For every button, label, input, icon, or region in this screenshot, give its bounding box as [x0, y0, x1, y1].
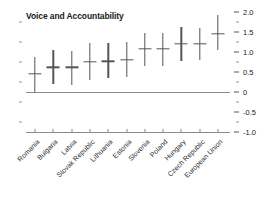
- y-minor-tick: [19, 22, 22, 23]
- y-minor-tick: [19, 122, 22, 123]
- x-tick-mark: [126, 129, 127, 133]
- y-tick-mark: [234, 112, 239, 113]
- chart-title: Voice and Accountability: [26, 11, 124, 21]
- y-minor-tick: [236, 42, 239, 43]
- y-tick-mark: [234, 92, 239, 93]
- x-tick-mark: [218, 129, 219, 133]
- x-tick-mark: [163, 129, 164, 133]
- y-minor-tick: [19, 82, 22, 83]
- estimate-marker: [193, 43, 206, 44]
- y-minor-tick: [236, 62, 239, 63]
- y-tick-mark: [234, 32, 239, 33]
- estimate-marker: [138, 48, 151, 49]
- estimate-marker: [157, 48, 170, 49]
- y-minor-tick: [236, 82, 239, 83]
- y-minor-tick: [19, 62, 22, 63]
- estimate-marker: [65, 66, 78, 67]
- zero-axis-line: [26, 92, 230, 93]
- range-line: [71, 51, 72, 85]
- x-tick-mark: [144, 129, 145, 133]
- x-tick-mark: [108, 129, 109, 133]
- x-tick-mark: [35, 129, 36, 133]
- chart-container: Voice and Accountability 2.01.51.00.50-0…: [0, 0, 265, 202]
- y-tick-label: 0.5: [243, 68, 253, 77]
- estimate-marker: [83, 61, 96, 62]
- y-minor-tick: [236, 122, 239, 123]
- y-minor-tick: [236, 102, 239, 103]
- y-tick-label: 1.0: [243, 48, 253, 57]
- y-tick-mark: [234, 52, 239, 53]
- x-tick-mark: [89, 129, 90, 133]
- y-tick-label: -0.5: [243, 108, 256, 117]
- y-tick-mark: [234, 132, 239, 133]
- estimate-marker: [175, 43, 188, 44]
- x-tick-mark: [199, 129, 200, 133]
- y-tick-label: -1.0: [243, 128, 256, 137]
- x-tick-mark: [71, 129, 72, 133]
- estimate-marker: [120, 59, 133, 60]
- x-tick-mark: [53, 129, 54, 133]
- x-tick-mark: [181, 129, 182, 133]
- y-tick-mark: [234, 72, 239, 73]
- estimate-marker: [212, 33, 225, 34]
- y-tick-label: 0: [243, 88, 247, 97]
- estimate-marker: [102, 60, 115, 61]
- y-minor-tick: [19, 102, 22, 103]
- y-minor-tick: [236, 22, 239, 23]
- estimate-marker: [29, 73, 42, 74]
- y-tick-mark: [234, 12, 239, 13]
- y-minor-tick: [19, 42, 22, 43]
- estimate-marker: [47, 66, 60, 67]
- y-tick-label: 1.5: [243, 28, 253, 37]
- y-tick-label: 2.0: [243, 8, 253, 17]
